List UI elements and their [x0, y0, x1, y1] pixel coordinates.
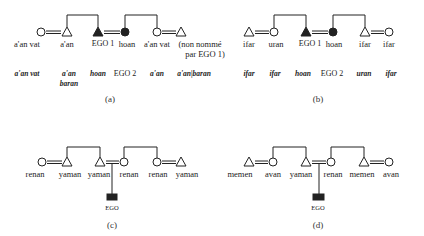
ego1-male-icon — [301, 27, 311, 36]
label: EGO 1 — [299, 40, 321, 48]
ego-label: EGO — [311, 205, 324, 212]
caption-a: (a) — [105, 94, 115, 104]
label: ifar — [269, 70, 280, 78]
label: avan — [383, 170, 399, 179]
label: a'an — [150, 70, 164, 78]
label: uran — [268, 40, 283, 49]
female-icon — [327, 158, 335, 166]
label: yaman — [88, 170, 111, 179]
label: a'an|baran — [177, 70, 211, 78]
label: hoan — [90, 70, 106, 78]
label: a'an vat — [144, 40, 170, 49]
label: yaman — [176, 170, 199, 179]
male-icon — [62, 27, 72, 36]
kinship-diagram — [0, 0, 424, 236]
label: memen — [349, 170, 374, 179]
male-icon — [244, 157, 254, 166]
female-icon — [269, 158, 277, 166]
male-icon — [95, 157, 105, 166]
ego1-male-icon — [93, 27, 103, 36]
ego-icon — [313, 194, 324, 200]
label: hoan — [119, 40, 136, 49]
label: ifar — [359, 40, 371, 49]
label: avan — [265, 170, 281, 179]
label: a'an — [62, 70, 76, 78]
label: yaman — [59, 170, 82, 179]
female-icon — [385, 28, 393, 36]
label: renan — [149, 170, 168, 179]
panel-b-symbols — [244, 15, 393, 36]
male-icon — [359, 157, 369, 166]
label: hoan — [295, 70, 311, 78]
male-icon — [176, 157, 186, 166]
label: ifar — [243, 40, 255, 49]
label: memen — [227, 170, 252, 179]
male-icon — [301, 157, 311, 166]
label: a'an — [60, 40, 73, 49]
label: EGO 2 — [114, 70, 136, 78]
label: par EGO 1) — [185, 50, 225, 59]
label: (non nommé — [178, 40, 221, 49]
female-icon — [153, 28, 161, 36]
label: renan — [324, 170, 343, 179]
ego-female-icon — [329, 28, 337, 36]
label: yaman — [290, 170, 313, 179]
caption-b: (b) — [313, 94, 324, 104]
label: ifar — [383, 40, 395, 49]
female-icon — [153, 158, 161, 166]
label: EGO 1 — [92, 40, 114, 48]
label: baran — [60, 80, 78, 88]
male-icon — [62, 157, 72, 166]
ego-icon — [107, 194, 117, 200]
label: a'an vat — [14, 40, 40, 49]
label: EGO 2 — [321, 70, 343, 78]
ego-female-icon — [121, 28, 129, 36]
label: renan — [120, 170, 139, 179]
male-icon — [244, 27, 254, 36]
female-icon — [38, 158, 46, 166]
caption-c: (c) — [107, 220, 117, 230]
female-icon — [385, 158, 393, 166]
label: ifar — [243, 70, 254, 78]
ego-label: EGO — [105, 205, 118, 212]
male-icon — [176, 27, 186, 36]
label: a'an vat — [15, 70, 40, 78]
male-icon — [360, 27, 370, 36]
caption-d: (d) — [313, 220, 324, 230]
female-icon — [37, 28, 45, 36]
label: uran — [356, 70, 371, 78]
label: renan — [26, 170, 45, 179]
label: hoan — [326, 40, 343, 49]
label: ifar — [385, 70, 396, 78]
female-icon — [120, 158, 128, 166]
panel-a-symbols — [37, 15, 186, 36]
female-icon — [270, 28, 278, 36]
